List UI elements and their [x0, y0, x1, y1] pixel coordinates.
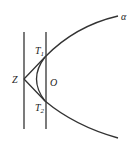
label-T1: T1 [35, 45, 44, 58]
label-alpha: α [121, 11, 127, 22]
diagram: α Z O T1 T2 [0, 0, 136, 151]
label-T2: T2 [35, 102, 45, 115]
label-O: O [50, 77, 57, 88]
label-T1-sub: 1 [41, 50, 45, 58]
label-Z: Z [12, 74, 18, 85]
label-T2-sub: 2 [41, 107, 45, 115]
inner-arc [37, 57, 46, 101]
